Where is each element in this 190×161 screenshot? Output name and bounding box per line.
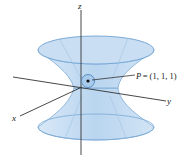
x-label: x (11, 113, 16, 123)
top-rim (38, 36, 154, 64)
point-dot (86, 79, 89, 82)
z-label: z (77, 1, 82, 11)
point-label: P= (1, 1, 1) (135, 71, 177, 81)
hyperboloid-diagram: z y x P= (1, 1, 1) (0, 0, 190, 161)
y-label: y (166, 96, 171, 106)
